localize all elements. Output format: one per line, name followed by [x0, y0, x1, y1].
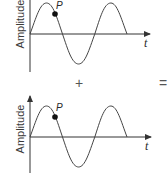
wave-superposition-diagram: P t Amplitude + = P t Amplitude	[0, 0, 168, 186]
top-x-axis-label: t	[144, 36, 148, 50]
top-y-axis-label: Amplitude	[14, 0, 26, 48]
top-point-p-label: P	[56, 0, 63, 11]
bottom-y-axis-label: Amplitude	[14, 105, 26, 154]
top-graph: P t Amplitude	[14, 0, 150, 72]
plus-operator: +	[75, 75, 83, 91]
top-point-p	[52, 11, 58, 17]
bottom-x-axis-label: t	[145, 139, 149, 153]
bottom-point-p	[52, 114, 58, 120]
bottom-graph: P t Amplitude	[14, 96, 151, 173]
equals-operator: =	[159, 75, 167, 91]
bottom-point-p-label: P	[56, 102, 63, 113]
